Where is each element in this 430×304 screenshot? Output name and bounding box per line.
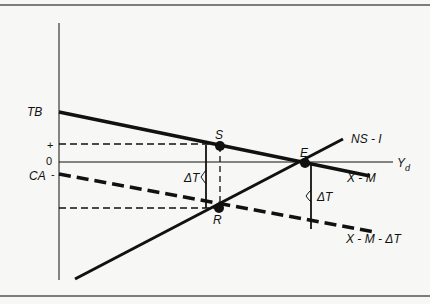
tb-label: TB [27,105,42,119]
point-s [215,141,225,151]
ca-label: CA [29,169,46,183]
r-label: R [213,213,222,227]
minus-label: - [51,168,55,180]
left-delta-t-label: ΔT [183,171,201,185]
point-r [214,203,224,213]
economics-diagram: TB + 0 CA - Yd S E R NS - I X - M X - M … [0,0,430,304]
x-axis-label: Yd [397,156,411,173]
x-minus-m-label: X - M [346,171,376,185]
x-minus-m-minus-dt-label: X - M - ΔT [345,232,402,246]
ns-minus-i-label: NS - I [351,132,382,146]
e-label: E [300,146,309,160]
right-delta-t-label: ΔT [316,190,334,204]
plus-label: + [47,139,53,151]
s-label: S [215,128,223,142]
zero-label: 0 [46,155,52,167]
